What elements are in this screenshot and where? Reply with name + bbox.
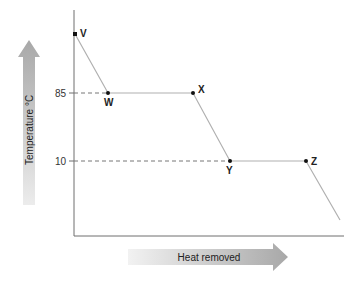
point-z: Z — [304, 156, 317, 167]
y-axis-title: Temperature °C — [24, 95, 35, 165]
point-v: V — [73, 28, 87, 39]
point-label-z: Z — [311, 156, 317, 167]
point-label-x: X — [198, 84, 205, 95]
tick-label-10: 10 — [55, 156, 67, 167]
cooling-curve — [75, 34, 340, 220]
point-label-w: W — [104, 97, 114, 108]
x-axis-title: Heat removed — [178, 252, 241, 263]
y-axis-arrow: Temperature °C — [18, 40, 40, 205]
y-tick-10: 10 — [55, 156, 74, 167]
y-tick-85: 85 — [55, 88, 74, 99]
point-x: X — [191, 84, 205, 95]
tick-label-85: 85 — [55, 88, 67, 99]
point-label-y: Y — [226, 165, 233, 176]
cooling-curve-chart: Temperature °C Heat removed 85 10 V W X … — [0, 0, 359, 283]
point-label-v: V — [80, 28, 87, 39]
x-axis-arrow: Heat removed — [128, 243, 288, 271]
